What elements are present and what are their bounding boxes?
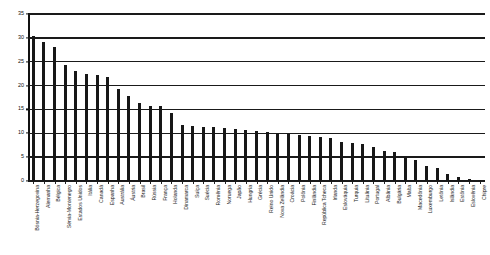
x-axis-label: Áustria — [131, 185, 136, 201]
x-tick-mark — [76, 182, 77, 184]
x-axis-label: Estônia — [460, 185, 465, 202]
x-tick-mark — [427, 182, 428, 184]
x-axis-label: Bósnia-Herzegovina — [35, 185, 40, 231]
x-axis-label: Japão — [237, 185, 242, 199]
bar — [212, 127, 215, 181]
x-tick-mark — [448, 182, 449, 184]
y-tick-label-10: 10 — [2, 131, 24, 136]
x-axis-label: Canadá — [99, 185, 104, 203]
bar — [298, 135, 301, 181]
bar — [117, 89, 120, 181]
bar — [127, 96, 130, 181]
bar — [74, 71, 77, 181]
x-tick-mark — [65, 182, 66, 184]
bar — [138, 103, 141, 181]
x-axis-label: Estados Unidos — [78, 185, 83, 221]
x-axis-label: Eslovênia — [471, 185, 476, 207]
bar — [96, 75, 99, 181]
x-tick-mark — [437, 182, 438, 184]
bar — [340, 142, 343, 181]
x-tick-mark — [33, 182, 34, 184]
x-axis-label: Turquia — [354, 185, 359, 202]
x-axis-label: Polônia — [301, 185, 306, 202]
x-tick-mark — [299, 182, 300, 184]
x-tick-mark — [416, 182, 417, 184]
x-axis-label: Espanha — [110, 185, 115, 205]
bar — [425, 166, 428, 181]
bar — [383, 151, 386, 181]
bar — [64, 65, 67, 181]
x-axis-label: Bélgica — [56, 185, 61, 202]
x-tick-mark — [320, 182, 321, 184]
bar — [53, 47, 56, 181]
bar — [446, 174, 449, 181]
x-axis-label: Austrália — [120, 185, 125, 205]
x-tick-mark — [171, 182, 172, 184]
x-tick-mark — [140, 182, 141, 184]
x-axis-label: Nova Zelândia — [280, 185, 285, 218]
x-tick-mark — [469, 182, 470, 184]
x-tick-mark — [395, 182, 396, 184]
x-tick-mark — [384, 182, 385, 184]
bar — [149, 106, 152, 181]
x-axis-label: Chipre — [482, 185, 487, 200]
x-axis-label: República Tcheca — [322, 185, 327, 225]
x-axis-label: Islândia — [450, 185, 455, 202]
bar — [170, 113, 173, 181]
x-axis-label: Irlanda — [333, 185, 338, 201]
bar — [287, 134, 290, 181]
x-axis-label: França — [163, 185, 168, 201]
x-tick-mark — [97, 182, 98, 184]
bar — [372, 147, 375, 181]
x-tick-mark — [86, 182, 87, 184]
x-axis-label: Brasil — [141, 185, 146, 198]
x-tick-mark — [182, 182, 183, 184]
x-axis-label: Romênia — [216, 185, 221, 205]
bar — [361, 144, 364, 181]
bar-chart: 05101520253035 Bósnia-HerzegovinaAlemanh… — [0, 0, 490, 255]
x-tick-mark — [405, 182, 406, 184]
x-tick-mark — [44, 182, 45, 184]
bar — [191, 126, 194, 181]
bar — [106, 77, 109, 181]
x-axis-label: Suíça — [195, 185, 200, 198]
x-axis-label: Malta — [407, 185, 412, 197]
x-tick-mark — [373, 182, 374, 184]
x-axis-label: Itália — [88, 185, 93, 196]
x-tick-mark — [214, 182, 215, 184]
bar — [329, 138, 332, 181]
bar — [202, 127, 205, 181]
x-axis-label: Reino Unido — [269, 185, 274, 213]
bar — [457, 177, 460, 181]
x-axis-label: Macedônia — [418, 185, 423, 210]
x-axis-label: Luxemburgo — [428, 185, 433, 213]
x-axis-label: Sérvia-Montenegro — [67, 185, 72, 228]
x-tick-mark — [193, 182, 194, 184]
x-axis-label: Albânia — [386, 185, 391, 202]
x-tick-mark — [278, 182, 279, 184]
x-tick-mark — [480, 182, 481, 184]
x-tick-mark — [363, 182, 364, 184]
x-tick-mark — [458, 182, 459, 184]
x-axis-label: Eslováquia — [343, 185, 348, 210]
x-tick-mark — [267, 182, 268, 184]
y-tick-label-30: 30 — [2, 35, 24, 40]
x-tick-mark — [55, 182, 56, 184]
x-axis-label: Suécia — [205, 185, 210, 201]
x-axis-label: Portugal — [375, 185, 380, 204]
x-axis-label: Lituânia — [365, 185, 370, 203]
x-axis-label: Croácia — [290, 185, 295, 203]
bar — [223, 128, 226, 181]
bar — [234, 129, 237, 181]
bar — [404, 158, 407, 181]
y-tick-label-35: 35 — [2, 11, 24, 16]
x-axis-label: Bulgária — [397, 185, 402, 204]
bar — [308, 136, 311, 181]
x-axis-label: Hungria — [248, 185, 253, 203]
x-tick-mark — [246, 182, 247, 184]
x-axis-labels: Bósnia-HerzegovinaAlemanhaBélgicaSérvia-… — [28, 185, 485, 255]
x-axis-label: Noruega — [227, 185, 232, 205]
x-axis-label: Holanda — [173, 185, 178, 204]
y-tick-label-25: 25 — [2, 59, 24, 64]
y-tick-label-20: 20 — [2, 83, 24, 88]
